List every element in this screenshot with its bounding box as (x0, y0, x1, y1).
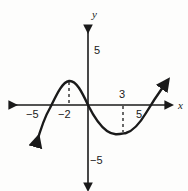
cubic-curve (36, 81, 163, 145)
x-tick-label-3: 3 (119, 89, 125, 100)
x-tick-label-5: 5 (136, 109, 142, 120)
x-tick-label-neg2: −2 (58, 109, 71, 120)
graph-figure: −5 −2 3 5 5 −5 x y (0, 0, 188, 191)
x-axis-label: x (178, 100, 183, 111)
y-tick-label-neg5: −5 (90, 155, 103, 166)
y-tick-label-5: 5 (94, 45, 100, 56)
x-tick-label-neg5: −5 (26, 109, 39, 120)
y-axis-label: y (92, 9, 97, 20)
